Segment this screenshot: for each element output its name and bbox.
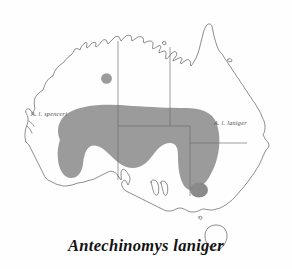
australia-map: [0, 0, 292, 269]
distribution-outlier-south-east: [190, 183, 208, 198]
label-subspecies-laniger: A. l. laniger: [214, 120, 247, 126]
distribution-range-layer: [58, 73, 220, 197]
island-melville: [228, 59, 232, 62]
bass-strait-island: [199, 216, 202, 219]
spencer-gulf-inlet: [151, 180, 159, 195]
gulf-st-vincent-inlet: [161, 181, 168, 196]
label-subspecies-spenceri: A. l. spenceri: [31, 111, 67, 117]
distribution-map-figure: A. l. spenceri A. l. laniger Antechinomy…: [0, 0, 292, 269]
distribution-outlier-western-australia: [101, 73, 112, 83]
distribution-range-main: [58, 105, 220, 191]
gulf-island-north: [162, 41, 166, 44]
figure-caption: Antechinomys laniger: [0, 236, 292, 256]
